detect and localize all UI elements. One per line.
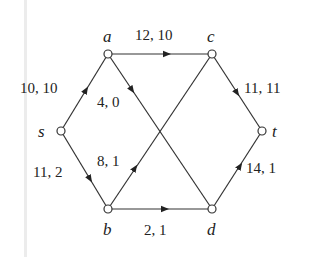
- edge-s-a: [61, 54, 108, 131]
- flow-network-diagram: a c s t b d 10, 10 11, 2 12, 10 4, 0 8, …: [0, 0, 316, 257]
- node-s: [57, 127, 65, 135]
- node-a: [104, 50, 112, 58]
- node-c: [208, 50, 216, 58]
- node-label-d: d: [207, 220, 216, 239]
- node-d: [208, 205, 216, 213]
- node-label-b: b: [103, 220, 112, 239]
- edge-label-s-a: 10, 10: [20, 80, 58, 96]
- edge-label-d-t: 14, 1: [246, 160, 276, 176]
- edge-label-b-d: 2, 1: [144, 222, 167, 238]
- edge-label-s-b: 11, 2: [33, 164, 62, 180]
- edge-label-c-t: 11, 11: [244, 80, 280, 96]
- edge-label-b-c: 8, 1: [97, 153, 120, 169]
- node-label-t: t: [272, 122, 278, 141]
- node-label-s: s: [38, 122, 45, 141]
- edge-s-b: [61, 131, 108, 209]
- node-label-c: c: [207, 27, 215, 46]
- diagram-svg: a c s t b d 10, 10 11, 2 12, 10 4, 0 8, …: [0, 0, 316, 257]
- edge-label-a-c: 12, 10: [135, 27, 173, 43]
- edge-label-a-d: 4, 0: [97, 94, 120, 110]
- node-t: [258, 127, 266, 135]
- node-label-a: a: [103, 27, 112, 46]
- node-b: [104, 205, 112, 213]
